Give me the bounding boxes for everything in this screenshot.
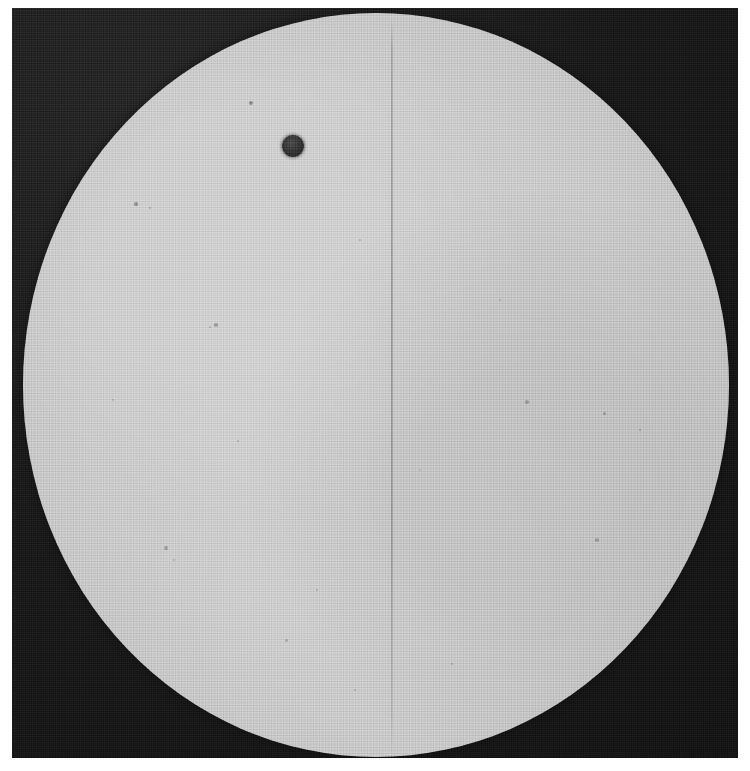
image-subject-text: solar disk with a small dark circular bo…	[0, 0, 1, 1]
photo-page: solar disk with a small dark circular bo…	[0, 0, 750, 771]
photosphere-mottling	[23, 13, 729, 757]
photographic-plate	[12, 8, 738, 758]
transiting-planet-disk	[282, 135, 304, 157]
solar-disk	[23, 13, 729, 757]
